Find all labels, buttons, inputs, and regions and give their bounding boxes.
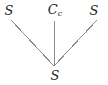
atom-label-carbon-top-center: Cc bbox=[48, 3, 62, 18]
atom-label-sulfur-center: S bbox=[51, 69, 60, 82]
atom-symbol: S bbox=[90, 3, 99, 18]
atom-symbol: C bbox=[48, 2, 58, 17]
atom-subscript: c bbox=[58, 9, 62, 18]
chemical-structure-diagram: S Cc S S bbox=[0, 0, 108, 85]
atom-label-sulfur-top-left: S bbox=[5, 4, 14, 17]
atom-symbol: S bbox=[5, 3, 14, 18]
bond-line-left bbox=[11, 20, 54, 66]
atom-label-sulfur-top-right: S bbox=[90, 4, 99, 17]
bond-line-right bbox=[54, 20, 97, 66]
atom-symbol: S bbox=[51, 68, 60, 83]
